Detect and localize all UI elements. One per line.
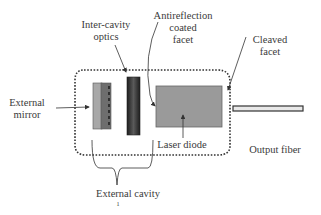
label-line: External xyxy=(2,97,52,109)
label-line: optics xyxy=(72,31,140,43)
label-cleaved-facet: Cleaved facet xyxy=(248,34,292,58)
external-cavity-brace xyxy=(92,140,153,185)
label-antireflection-facet: Antireflection coated facet xyxy=(148,10,218,46)
inter-cavity-pointer xyxy=(115,45,126,72)
label-line: Inter-cavity xyxy=(72,19,140,31)
label-external-mirror: External mirror xyxy=(2,97,52,121)
label-line: mirror xyxy=(2,109,52,121)
external-mirror-pointer xyxy=(56,107,89,108)
label-line: facet xyxy=(248,46,292,58)
laser-diode xyxy=(156,86,222,127)
inter-cavity-optics xyxy=(127,77,140,135)
label-laser-diode: Laser diode xyxy=(153,139,211,151)
label-line: Antireflection xyxy=(148,10,218,22)
label-line: coated xyxy=(148,22,218,34)
cleaved-facet-pointer xyxy=(228,37,246,90)
label-external-cavity: External cavity xyxy=(92,188,164,200)
label-output-fiber: Output fiber xyxy=(245,144,305,156)
label-inter-cavity-optics: Inter-cavity optics xyxy=(72,19,140,43)
footnote-mark: 1 xyxy=(113,201,123,208)
output-fiber xyxy=(233,106,303,111)
external-mirror xyxy=(93,83,111,129)
label-line: facet xyxy=(148,34,218,46)
label-line: Cleaved xyxy=(248,34,292,46)
